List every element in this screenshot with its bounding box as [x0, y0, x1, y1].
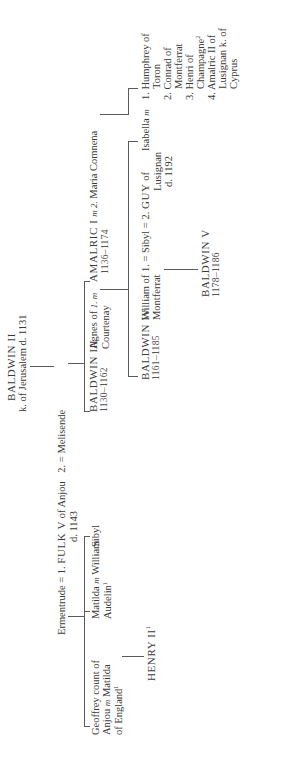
person-baldwin-iii: BALDWIN III 1130–1162 [88, 340, 110, 412]
person-baldwin-v: BALDWIN V 1178–1186 [200, 229, 222, 297]
connector-to-isabella [128, 115, 129, 237]
genealogy-tree: BALDWIN II k. of Jerusalem d. 1131 Ermen… [0, 0, 288, 757]
husband-2: 2. Conrad of Montferrat [162, 28, 184, 100]
connector-agnes-amalric [100, 289, 128, 290]
guy-name: GUY [139, 183, 151, 209]
person-sibyl-of-anjou: Sibyl [90, 525, 101, 547]
baldwin-ii-title: k. of Jerusalem d. 1131 [17, 322, 28, 412]
spine-amalric-maria-children [128, 89, 129, 115]
drop-sibyl [128, 141, 138, 142]
person-isabella: Isabella m [140, 109, 152, 151]
husband-4: 4. Amalric II of Lusignan k. of Cyprus [206, 28, 239, 100]
connector-fulk-ermentrude [68, 616, 84, 617]
melisende-name: Melisende [56, 410, 67, 454]
person-guy-of-lusignan: Lusignan d. 1192 [152, 152, 174, 191]
isabella-husbands-list: 1. Humphrey of Toron 2. Conrad of Montfe… [140, 28, 239, 100]
connector-baldwin-ii-melisende [30, 366, 54, 367]
spine-fulk-melisende-children [84, 282, 85, 412]
person-amalric-i: AMALRIC I m 2. Maria Comnena 1136–1174 [88, 131, 111, 282]
person-agnes: Agnes of 1. m Courtenay [88, 293, 111, 349]
sibyl-name: Sibyl [140, 231, 151, 253]
person-baldwin-ii: BALDWIN II k. of Jerusalem d. 1131 [6, 322, 28, 412]
husband-3: 3. Henri of Champagne2 [184, 28, 206, 100]
drop-isabella [128, 88, 138, 89]
fulk-death: d. 1143 [68, 511, 79, 542]
connector-william-sibyl-baldwin-v [164, 269, 198, 270]
connector-fulk-melisende [68, 363, 84, 364]
person-henry-ii: HENRY II1 [146, 626, 157, 681]
fulk-marriage-line: Ermentrude = 1. FULK V of Anjou 2. = Mel… [56, 410, 67, 635]
person-matilda: Matilda m William Audelin1 [90, 541, 113, 619]
connector-geoffrey-henry [122, 656, 144, 657]
person-william-of-montferrat: William of 1. = Sibyl = 2. GUY of Montfe… [140, 172, 162, 320]
spine-fulk-ermentrude-children [84, 537, 85, 727]
person-geoffrey: Geoffrey count of Anjou m Matilda of Eng… [90, 660, 124, 735]
ermentrude-name: Ermentrude [56, 585, 67, 635]
baldwin-ii-name: BALDWIN II [6, 322, 17, 412]
fulk-name: FULK V [55, 521, 67, 564]
maria-comnena-name: Maria Comnena [88, 131, 99, 199]
drop-baldwin-iv [128, 376, 138, 377]
husband-1: 1. Humphrey of Toron [140, 28, 162, 100]
connector-amalric-maria [100, 114, 128, 115]
